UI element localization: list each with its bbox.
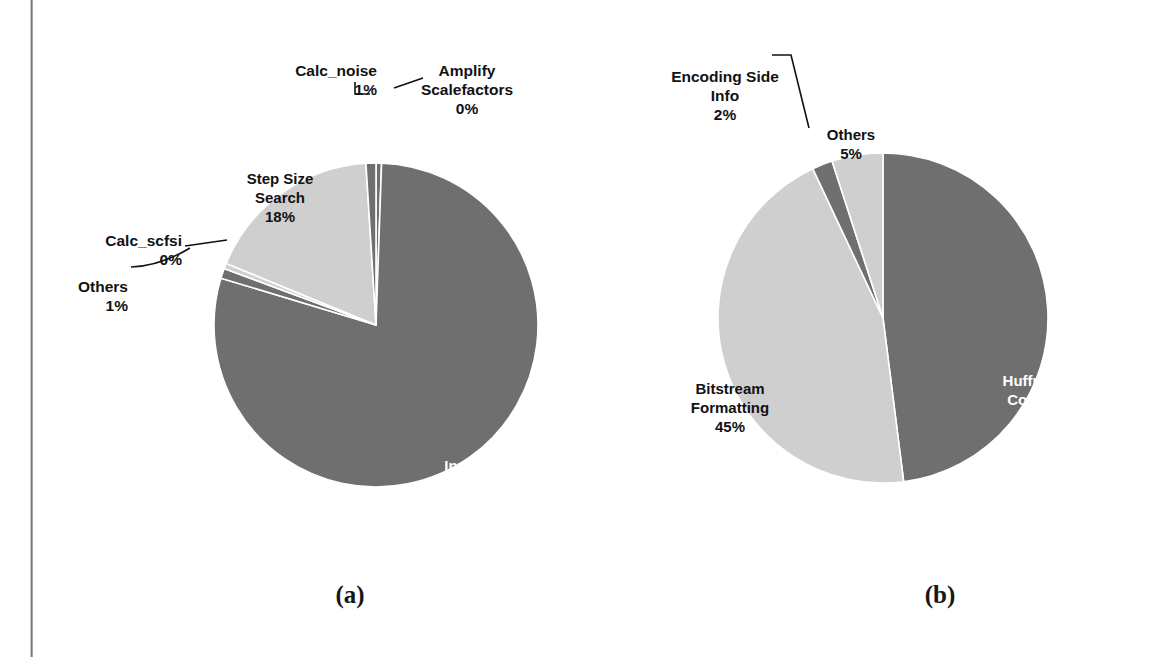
label-step-size-search-percent: 18% [265, 208, 295, 225]
label-others-a-text: Others [78, 278, 128, 295]
label-amplify-scalefactors-percent: 0% [402, 99, 532, 118]
label-amplify-scalefactors-text: Amplify Scalefactors [421, 62, 513, 98]
label-others-b: Others 5% [811, 106, 891, 163]
label-calc-noise: Calc_noise 1% [272, 42, 377, 118]
pie-slice [883, 153, 1048, 482]
label-inner-loop: Inner Loop 80% [428, 437, 538, 494]
label-calc-noise-percent: 1% [272, 80, 377, 99]
label-others-b-text: Others [827, 126, 875, 143]
figure-b: Encoding Side Info 2% Others 5% Huffman … [583, 0, 1166, 657]
label-others-a-percent: 1% [36, 296, 128, 315]
label-others-b-percent: 5% [840, 145, 862, 162]
label-encoding-side-info: Encoding Side Info 2% [645, 48, 805, 143]
label-huffman-coding-text: Huffman Coding [1003, 372, 1064, 408]
label-calc-scfsi-text: Calc_scfsi [105, 232, 182, 249]
label-inner-loop-text: Inner Loop [444, 457, 522, 474]
label-encoding-side-info-percent: 2% [645, 105, 805, 124]
label-step-size-search-text: Step Size Search [247, 170, 314, 206]
caption-a: (a) [290, 581, 410, 609]
caption-b: (b) [880, 581, 1000, 609]
label-calc-noise-text: Calc_noise [295, 62, 377, 79]
label-inner-loop-percent: 80% [468, 476, 498, 493]
label-amplify-scalefactors: Amplify Scalefactors 0% [402, 42, 532, 137]
label-huffman-coding-percent: 48% [1018, 410, 1048, 427]
label-others-a: Others 1% [36, 258, 128, 334]
figure-page: Calc_noise 1% Amplify Scalefactors 0% Ca… [0, 0, 1166, 657]
figure-a: Calc_noise 1% Amplify Scalefactors 0% Ca… [0, 0, 583, 657]
label-bitstream-formatting-text: Bitstream Formatting [691, 380, 769, 416]
label-step-size-search: Step Size Search 18% [218, 150, 342, 226]
label-huffman-coding: Huffman Coding 48% [978, 352, 1088, 428]
label-bitstream-formatting-percent: 45% [715, 418, 745, 435]
label-bitstream-formatting: Bitstream Formatting 45% [665, 360, 795, 436]
label-encoding-side-info-text: Encoding Side Info [671, 68, 779, 104]
